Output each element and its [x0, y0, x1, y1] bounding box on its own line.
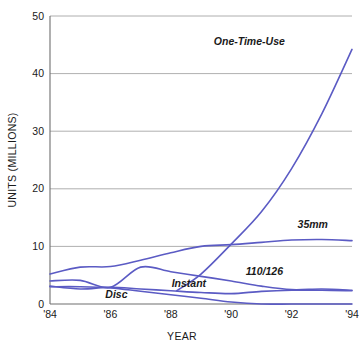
y-tick-label-20: 20	[32, 182, 44, 194]
x-tick-label-94: '94	[345, 308, 359, 320]
y-tick-label-30: 30	[32, 125, 44, 137]
y-axis-title: UNITS (MILLIONS)	[6, 112, 18, 207]
line-chart: 01020304050 '84'86'88'90'92'94 One-Time-…	[0, 0, 364, 352]
series-label-35mm: 35mm	[298, 218, 328, 230]
y-tick-label-50: 50	[32, 10, 44, 22]
series-line-35mm	[50, 239, 352, 274]
x-tick-label-92: '92	[285, 308, 299, 320]
y-tick-label-10: 10	[32, 240, 44, 252]
gridlines	[50, 16, 352, 304]
series-label-110-126: 110/126	[246, 265, 283, 277]
y-axis-tick-labels: 01020304050	[32, 10, 44, 310]
x-axis-tick-labels: '84'86'88'90'92'94	[43, 308, 359, 320]
x-tick-label-86: '86	[104, 308, 118, 320]
data-series-lines	[50, 49, 352, 304]
x-tick-label-84: '84	[43, 308, 57, 320]
y-tick-label-40: 40	[32, 67, 44, 79]
x-tick-label-90: '90	[224, 308, 238, 320]
x-tick-label-88: '88	[164, 308, 178, 320]
series-line-one-time-use	[177, 49, 352, 290]
x-axis-title: YEAR	[167, 330, 197, 342]
series-label-disc: Disc	[105, 288, 127, 300]
series-label-instant: Instant	[172, 277, 207, 289]
series-label-one-time-use: One-Time-Use	[214, 35, 285, 47]
chart-canvas: 01020304050 '84'86'88'90'92'94 One-Time-…	[0, 0, 364, 352]
